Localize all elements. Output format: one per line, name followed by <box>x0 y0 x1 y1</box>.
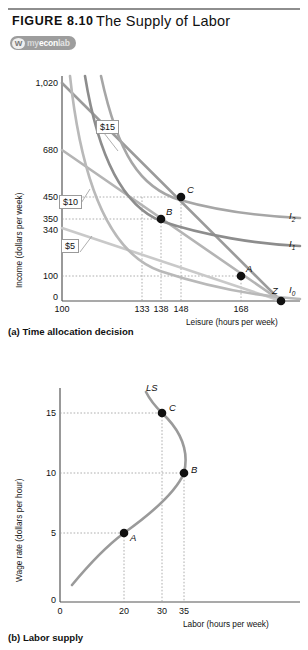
panel-a-xtick-148: 148 <box>166 304 196 314</box>
panel-a-caption: (a) Time allocation decision <box>8 326 134 337</box>
panel-b-point-B <box>180 469 189 478</box>
panel-b-label-B: B <box>191 464 197 475</box>
header-rule <box>8 8 300 10</box>
panel-b-point-A <box>120 529 129 538</box>
panel-a-curve-label-I0: I0 <box>289 284 295 297</box>
panel-a: Income (dollars per week) 1,020 680 450 … <box>0 58 308 343</box>
panel-a-wage-label-15: $15 <box>96 120 119 134</box>
panel-a-curve-label-I2: I2 <box>289 210 295 223</box>
panel-a-plot <box>0 58 308 343</box>
panel-a-label-B: B <box>166 206 172 217</box>
panel-b-xtick-0: 0 <box>45 606 75 616</box>
panel-a-label-A: A <box>246 263 252 274</box>
panel-a-point-C <box>177 193 186 202</box>
figure-title: The Supply of Labor <box>96 13 230 29</box>
logo-econ: econ <box>39 38 58 48</box>
panel-b-point-C <box>158 409 167 418</box>
panel-b: Wage rate (dollars per hour) 15 10 5 0 <box>0 370 308 650</box>
figure-header: FIGURE 8.10 The Supply of Labor <box>12 14 302 36</box>
panel-b-label-C: C <box>169 402 176 413</box>
panel-a-point-A <box>237 272 246 281</box>
panel-a-label-C: C <box>187 184 194 195</box>
panel-b-caption: (b) Labor supply <box>8 632 83 643</box>
panel-a-point-Z <box>277 297 286 306</box>
panel-a-label-Z: Z <box>272 285 278 296</box>
panel-a-xtick-100: 100 <box>47 304 77 314</box>
panel-a-curve-label-I1: I1 <box>289 238 295 251</box>
panel-a-x-axis-label: Leisure (hours per week) <box>186 317 278 327</box>
panel-b-label-A: A <box>130 532 136 543</box>
panel-a-xtick-168: 168 <box>226 304 256 314</box>
panel-b-xtick-35: 35 <box>169 606 199 616</box>
panel-b-xtick-20: 20 <box>109 606 139 616</box>
panel-a-wage-label-10: $10 <box>59 195 82 209</box>
panel-b-curve-label-LS: LS <box>146 382 158 393</box>
logo-my: my <box>27 38 39 48</box>
w-mark-icon: W <box>12 38 25 49</box>
figure-number: FIGURE 8.10 <box>12 14 94 28</box>
panel-a-point-B <box>157 215 166 224</box>
panel-b-x-axis-label: Labor (hours per week) <box>183 619 269 629</box>
figure-container: FIGURE 8.10 The Supply of Labor W my eco… <box>0 0 308 650</box>
myeconlab-logo[interactable]: W my econ lab <box>10 36 76 50</box>
panel-a-wage-label-5: $5 <box>61 239 79 253</box>
logo-lab: lab <box>58 38 70 48</box>
